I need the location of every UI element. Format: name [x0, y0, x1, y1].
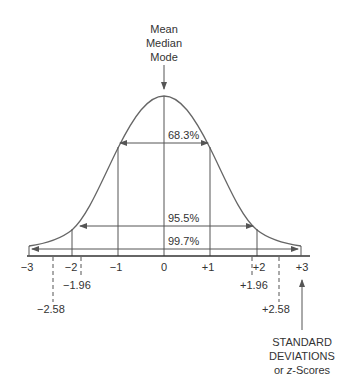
axis-tick-labels: −3 −2 −1 0 +1 +2 +3	[21, 261, 309, 273]
normal-distribution-diagram: Mean Median Mode 68.3% 95.5% 99.7% −3 −2…	[0, 0, 348, 377]
plus-2-58-label: +2.58	[262, 303, 290, 315]
central-tendency-label: Mean Median Mode	[146, 23, 182, 63]
std-dev-caption: STANDARD DEVIATIONS or z-Scores	[269, 336, 335, 376]
plus-1-96-label: +1.96	[240, 279, 268, 291]
mean-label: Mean	[150, 23, 178, 35]
caption-line-2: DEVIATIONS	[269, 350, 335, 362]
interval-95-label: 95.5%	[168, 212, 199, 224]
minus-1-96-label: −1.96	[63, 279, 91, 291]
tick-label: +2	[253, 261, 266, 273]
tick-label: +3	[296, 261, 309, 273]
mode-label: Mode	[150, 51, 178, 63]
tick-label: 0	[161, 261, 167, 273]
tick-label: −3	[21, 261, 34, 273]
interval-68-label: 68.3%	[168, 129, 199, 141]
caption-line-1: STANDARD	[272, 336, 332, 348]
bell-curve	[29, 96, 301, 246]
minus-2-58-label: −2.58	[37, 303, 65, 315]
interval-99-label: 99.7%	[168, 235, 199, 247]
tick-label: −2	[65, 261, 78, 273]
median-label: Median	[146, 37, 182, 49]
caption-line-3: or z-Scores	[274, 364, 331, 376]
tick-label: +1	[202, 261, 215, 273]
tick-label: −1	[110, 261, 123, 273]
